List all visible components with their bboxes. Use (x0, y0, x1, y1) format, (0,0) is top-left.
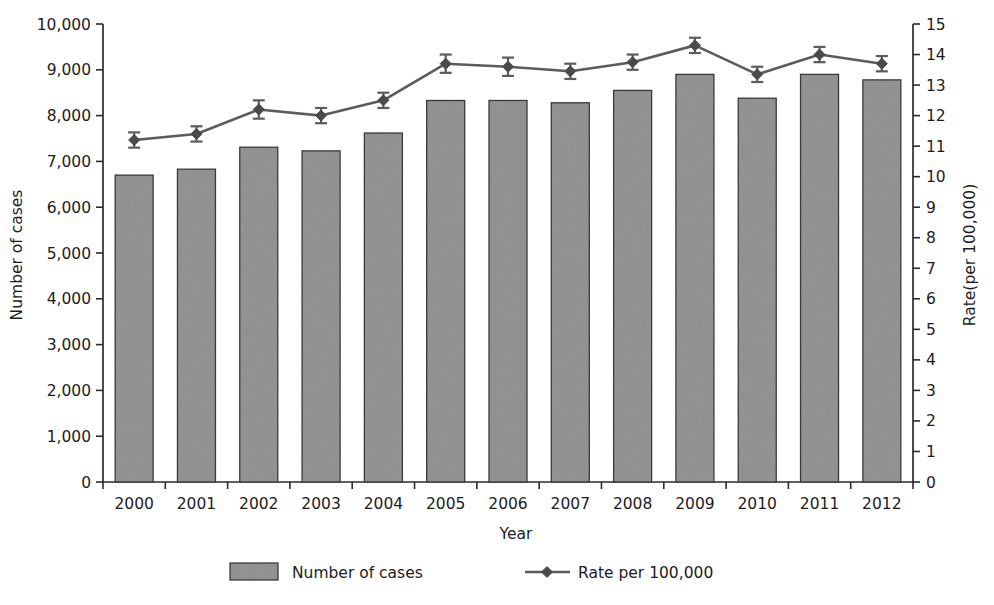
bar (863, 80, 901, 482)
diamond-marker (129, 135, 140, 146)
bar (240, 147, 278, 482)
right-axis-tick-label: 14 (926, 46, 946, 64)
right-axis-tick-label: 7 (926, 260, 936, 278)
left-axis-tick-label: 4,000 (47, 290, 91, 308)
x-axis-title: Year (499, 525, 533, 543)
diamond-marker (253, 104, 264, 115)
chart-legend: Number of casesRate per 100,000 (230, 563, 713, 582)
left-axis-tick-label: 3,000 (47, 336, 91, 354)
x-axis-tick-label: 2002 (239, 495, 278, 513)
right-axis-tick-label: 11 (926, 138, 946, 156)
x-axis-tick-label: 2004 (364, 495, 403, 513)
right-axis-tick-label: 3 (926, 382, 936, 400)
x-axis-tick-label: 2010 (738, 495, 777, 513)
bar (551, 103, 589, 482)
diamond-marker (378, 95, 389, 106)
diamond-marker (814, 49, 825, 60)
left-axis-tick-label: 1,000 (47, 428, 91, 446)
x-axis-tick-label: 2011 (800, 495, 839, 513)
legend-label-rate: Rate per 100,000 (578, 564, 713, 582)
bar (115, 175, 153, 482)
left-axis-tick-label: 2,000 (47, 382, 91, 400)
right-axis-tick-label: 1 (926, 443, 936, 461)
x-axis: 2000200120022003200420052006200720082009… (103, 482, 913, 513)
right-axis-tick-label: 12 (926, 107, 946, 125)
diamond-marker (876, 58, 887, 69)
left-axis-tick-label: 8,000 (47, 107, 91, 125)
x-axis-tick-label: 2001 (177, 495, 216, 513)
right-axis-tick-label: 2 (926, 412, 936, 430)
right-axis: 0123456789101112131415 (913, 16, 946, 492)
left-axis-tick-label: 10,000 (37, 16, 91, 34)
left-axis-tick-label: 7,000 (47, 153, 91, 171)
x-axis-tick-label: 2003 (301, 495, 340, 513)
bar-series-number-of-cases (115, 74, 901, 482)
left-axis-title: Number of cases (8, 190, 26, 321)
bar (177, 169, 215, 482)
right-axis-tick-label: 8 (926, 229, 936, 247)
right-axis-tick-label: 9 (926, 199, 936, 217)
x-axis-tick-label: 2005 (426, 495, 465, 513)
right-axis-tick-label: 15 (926, 16, 946, 34)
bar (364, 133, 402, 482)
bar (427, 100, 465, 482)
bar (302, 151, 340, 482)
right-axis-tick-label: 13 (926, 77, 946, 95)
right-axis-tick-label: 6 (926, 290, 936, 308)
x-axis-tick-label: 2008 (613, 495, 652, 513)
left-axis-tick-label: 5,000 (47, 245, 91, 263)
diamond-marker (503, 61, 514, 72)
diamond-marker (191, 128, 202, 139)
legend-swatch-number-of-cases (230, 563, 278, 580)
bar (489, 100, 527, 482)
left-axis-tick-label: 9,000 (47, 61, 91, 79)
left-axis: 01,0002,0003,0004,0005,0006,0007,0008,00… (37, 16, 103, 492)
combo-chart: 01,0002,0003,0004,0005,0006,0007,0008,00… (0, 0, 994, 605)
diamond-marker (689, 40, 700, 51)
diamond-marker (565, 66, 576, 77)
bar (801, 74, 839, 482)
right-axis-tick-label: 5 (926, 321, 936, 339)
bar (738, 98, 776, 482)
x-axis-tick-label: 2000 (114, 495, 153, 513)
bar (676, 74, 714, 482)
chart-container: 01,0002,0003,0004,0005,0006,0007,0008,00… (0, 0, 994, 605)
right-axis-title: Rate(per 100,000) (961, 184, 979, 326)
right-axis-tick-label: 10 (926, 168, 946, 186)
left-axis-tick-label: 6,000 (47, 199, 91, 217)
right-axis-tick-label: 0 (926, 474, 936, 492)
x-axis-tick-label: 2012 (862, 495, 901, 513)
legend-diamond-marker (542, 567, 553, 578)
diamond-marker (440, 58, 451, 69)
left-axis-tick-label: 0 (81, 474, 91, 492)
right-axis-tick-label: 4 (926, 351, 936, 369)
x-axis-tick-label: 2006 (488, 495, 527, 513)
x-axis-tick-label: 2007 (551, 495, 590, 513)
x-axis-tick-label: 2009 (675, 495, 714, 513)
legend-label-number-of-cases: Number of cases (292, 564, 423, 582)
diamond-marker (316, 110, 327, 121)
diamond-marker (752, 69, 763, 80)
diamond-marker (627, 57, 638, 68)
bar (614, 90, 652, 482)
